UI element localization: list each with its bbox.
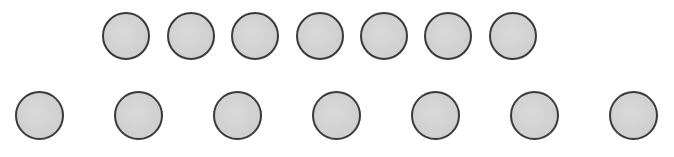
- circle: [231, 12, 279, 60]
- circle: [296, 12, 344, 60]
- circle: [213, 91, 262, 140]
- circle-diagram: [0, 0, 674, 157]
- circle: [360, 12, 408, 60]
- circle: [15, 91, 64, 140]
- circle: [424, 12, 472, 60]
- circle: [489, 12, 537, 60]
- circle: [609, 91, 658, 140]
- circle: [102, 12, 150, 60]
- circle: [510, 91, 559, 140]
- circle: [312, 91, 361, 140]
- circle: [167, 12, 215, 60]
- circle: [411, 91, 460, 140]
- circle: [114, 91, 163, 140]
